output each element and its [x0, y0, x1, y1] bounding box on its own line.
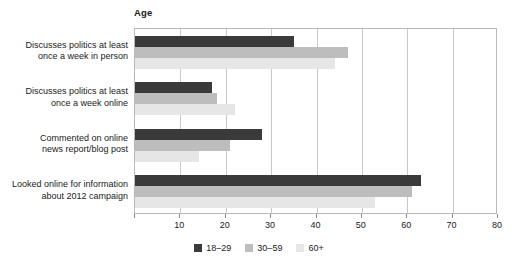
y-axis-category-labels: Discusses politics at leastonce a week i… — [0, 28, 128, 214]
y-axis-label-line: once a week online — [0, 98, 128, 110]
plot-area — [134, 28, 497, 214]
y-axis-label-line: Discusses politics at least — [0, 86, 128, 98]
x-axis-tick — [497, 214, 498, 218]
bar-group — [135, 36, 496, 69]
x-axis-tick — [270, 214, 271, 218]
y-axis-label: Discusses politics at leastonce a week o… — [0, 86, 128, 109]
bar — [135, 47, 348, 58]
y-axis-label: Commented on onlinenews report/blog post — [0, 133, 128, 156]
legend-title: Age — [134, 7, 153, 18]
x-axis-tick-label: 50 — [356, 220, 366, 230]
bar-group — [135, 175, 496, 208]
legend-item[interactable]: 18–29 — [194, 243, 231, 253]
legend-swatch-icon — [296, 244, 304, 252]
y-axis-label: Discusses politics at leastonce a week i… — [0, 40, 128, 63]
x-axis-tick-label: 60 — [401, 220, 411, 230]
legend-label: 18–29 — [206, 243, 231, 253]
x-axis-tick — [179, 214, 180, 218]
bar — [135, 104, 235, 115]
y-axis-label-line: about 2012 campaign — [0, 191, 128, 203]
legend-swatch-icon — [194, 244, 202, 252]
x-axis-tick — [316, 214, 317, 218]
y-axis-label-line: Looked online for information — [0, 179, 128, 191]
bar — [135, 36, 294, 47]
x-axis-tick-label: 20 — [220, 220, 230, 230]
bar — [135, 93, 217, 104]
x-axis-tick — [361, 214, 362, 218]
bar — [135, 186, 412, 197]
y-axis-label: Looked online for informationabout 2012 … — [0, 179, 128, 202]
x-axis-tick-label: 80 — [492, 220, 502, 230]
x-axis-tick-label: 30 — [265, 220, 275, 230]
y-axis-label-line: news report/blog post — [0, 144, 128, 156]
y-axis-label-line: once a week in person — [0, 51, 128, 63]
bar — [135, 151, 199, 162]
x-axis: 1020304050607080 — [134, 214, 497, 234]
bar-group — [135, 82, 496, 115]
x-axis-tick — [406, 214, 407, 218]
bar-group — [135, 129, 496, 162]
legend-item[interactable]: 60+ — [296, 243, 323, 253]
bar-rows — [135, 29, 496, 213]
bar — [135, 140, 230, 151]
legend: 18–2930–5960+ — [0, 243, 518, 253]
legend-label: 30–59 — [257, 243, 282, 253]
legend-label: 60+ — [308, 243, 323, 253]
bar — [135, 82, 212, 93]
bar — [135, 129, 262, 140]
bar — [135, 58, 335, 69]
x-axis-tick-label: 70 — [447, 220, 457, 230]
x-axis-tick — [452, 214, 453, 218]
legend-item[interactable]: 30–59 — [245, 243, 282, 253]
y-axis-label-line: Commented on online — [0, 133, 128, 145]
bar — [135, 197, 375, 208]
x-axis-tick — [134, 214, 135, 218]
bar-chart: Age Discusses politics at leastonce a we… — [0, 0, 518, 271]
x-axis-tick-label: 10 — [174, 220, 184, 230]
x-axis-tick-label: 40 — [310, 220, 320, 230]
x-axis-tick — [225, 214, 226, 218]
bar — [135, 175, 421, 186]
legend-swatch-icon — [245, 244, 253, 252]
y-axis-label-line: Discusses politics at least — [0, 40, 128, 52]
